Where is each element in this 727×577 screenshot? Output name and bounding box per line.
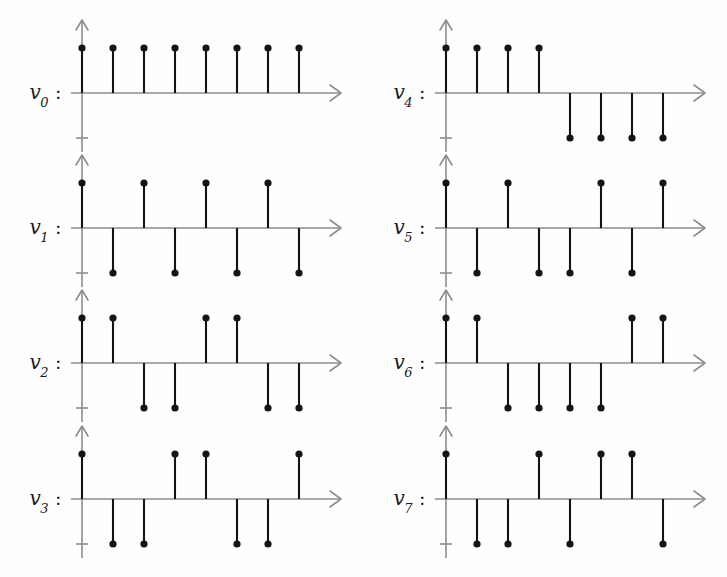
stem-1: [109, 228, 116, 277]
label-colon: :: [419, 81, 426, 103]
stem-dot: [628, 314, 635, 321]
stem-plot-svg: [66, 288, 340, 423]
stem-0: [78, 44, 85, 93]
stem-6: [264, 363, 271, 412]
stem-dot: [202, 179, 209, 186]
stem-dot: [535, 44, 542, 51]
stem-5: [597, 363, 604, 412]
stem-plot-svg: [430, 153, 704, 288]
stem-dot: [535, 404, 542, 411]
plot-area-v3: [66, 424, 340, 559]
stem-dot: [504, 44, 511, 51]
stem-1: [109, 499, 116, 548]
stem-dot: [566, 540, 573, 547]
stem-6: [264, 179, 271, 228]
stem-dot: [566, 269, 573, 276]
stem-2: [140, 499, 147, 548]
stem-plot-panel-v3: v3:: [0, 424, 340, 559]
stem-plot-svg: [66, 153, 340, 288]
label-colon: :: [55, 216, 62, 238]
stem-dot: [535, 269, 542, 276]
stem-7: [659, 314, 666, 363]
label-subscript: 1: [40, 230, 49, 245]
stem-dot: [264, 44, 271, 51]
stem-dot: [233, 540, 240, 547]
label-colon: :: [419, 351, 426, 373]
stem-dot: [140, 540, 147, 547]
stem-5: [233, 44, 240, 93]
stem-dot: [659, 179, 666, 186]
stem-dot: [597, 134, 604, 141]
stem-dot: [535, 450, 542, 457]
stem-dot: [202, 450, 209, 457]
label-subscript: 6: [404, 365, 413, 380]
stem-7: [659, 179, 666, 228]
stem-plot-svg: [430, 288, 704, 423]
stem-dot: [109, 44, 116, 51]
panel-label-v7: v7:: [364, 486, 426, 513]
stem-dot: [140, 404, 147, 411]
stem-plot-panel-v5: v5:: [364, 153, 704, 288]
stem-dot: [628, 269, 635, 276]
stem-plot-panel-v0: v0:: [0, 18, 340, 153]
stem-4: [202, 179, 209, 228]
plot-area-v4: [430, 18, 704, 153]
label-colon: :: [55, 487, 62, 509]
stem-1: [473, 499, 480, 548]
stem-dot: [295, 44, 302, 51]
label-colon: :: [419, 487, 426, 509]
plot-area-v7: [430, 424, 704, 559]
stem-dot: [597, 404, 604, 411]
panel-label-v0: v0:: [0, 80, 62, 107]
stem-dot: [109, 314, 116, 321]
stem-3: [171, 44, 178, 93]
stem-dot: [473, 44, 480, 51]
stem-dot: [597, 179, 604, 186]
stem-dot: [659, 134, 666, 141]
stem-1: [473, 228, 480, 277]
stem-dot: [202, 314, 209, 321]
stem-dot: [295, 404, 302, 411]
stem-4: [566, 363, 573, 412]
stem-6: [628, 314, 635, 363]
stem-plot-panel-v1: v1:: [0, 153, 340, 288]
stem-0: [442, 44, 449, 93]
stem-plot-panel-v4: v4:: [364, 18, 704, 153]
stem-dot: [566, 404, 573, 411]
panel-label-v3: v3:: [0, 486, 62, 513]
stem-1: [109, 314, 116, 363]
stem-dot: [78, 314, 85, 321]
stem-1: [473, 314, 480, 363]
plot-area-v1: [66, 153, 340, 288]
stem-dot: [78, 179, 85, 186]
stem-5: [233, 499, 240, 548]
plot-area-v2: [66, 288, 340, 423]
stem-4: [566, 228, 573, 277]
panel-label-v6: v6:: [364, 350, 426, 377]
stem-dot: [504, 540, 511, 547]
stem-dot: [171, 450, 178, 457]
stem-dot: [109, 540, 116, 547]
stem-3: [535, 450, 542, 499]
stem-0: [442, 314, 449, 363]
stem-plot-panel-v2: v2:: [0, 288, 340, 423]
label-colon: :: [55, 351, 62, 373]
stem-2: [140, 363, 147, 412]
stem-dot: [442, 44, 449, 51]
label-subscript: 4: [404, 95, 413, 110]
stem-dot: [628, 134, 635, 141]
stem-6: [628, 228, 635, 277]
stem-4: [202, 314, 209, 363]
stem-1: [473, 44, 480, 93]
label-subscript: 3: [40, 501, 49, 516]
stem-dot: [295, 269, 302, 276]
stem-dot: [659, 540, 666, 547]
stem-dot: [233, 44, 240, 51]
stem-dot: [78, 44, 85, 51]
label-subscript: 7: [404, 501, 413, 516]
stem-0: [78, 179, 85, 228]
stem-dot: [597, 450, 604, 457]
stem-plot-svg: [430, 424, 704, 559]
stem-7: [659, 93, 666, 142]
stem-0: [442, 179, 449, 228]
